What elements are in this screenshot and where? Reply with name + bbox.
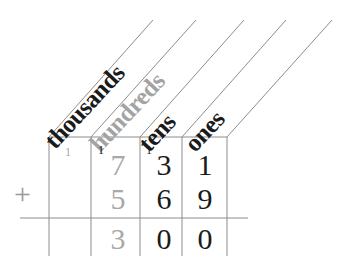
cell-addend-2-tens: 6 — [146, 184, 182, 214]
plus-operator: + — [14, 179, 31, 209]
cell-addend-2-ones: 9 — [187, 184, 223, 214]
cell-addend-1-hundreds: 7 — [100, 150, 136, 180]
carry-thousands: 1 — [62, 146, 74, 158]
cell-addend-1-tens: 3 — [146, 150, 182, 180]
diagonal-line-ones-right — [227, 20, 332, 137]
cell-sum-tens: 0 — [146, 224, 182, 254]
worksheet-canvas: thousands hundreds tens ones + 1 1 1 7 3… — [0, 0, 349, 271]
cell-addend-1-ones: 1 — [187, 150, 223, 180]
cell-sum-ones: 0 — [187, 224, 223, 254]
cell-sum-hundreds: 3 — [100, 224, 136, 254]
cell-addend-2-hundreds: 5 — [100, 184, 136, 214]
